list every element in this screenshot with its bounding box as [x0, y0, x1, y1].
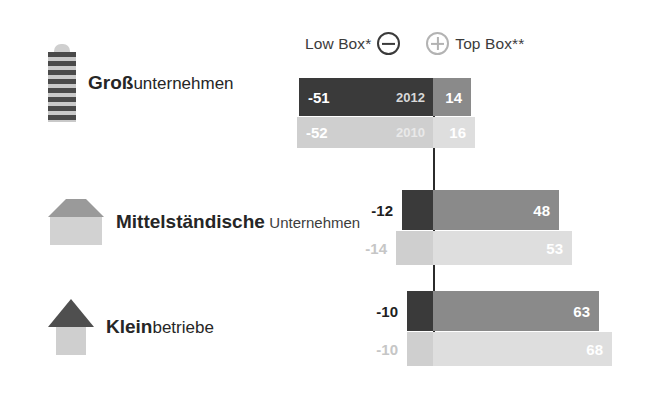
bar-klein-2012: -10 63 — [407, 291, 599, 331]
bar-segment-klein-2012-top: 63 — [433, 291, 599, 331]
bar-value-klein-2010-top: 68 — [586, 341, 603, 358]
bar-klein-2010: -10 68 — [407, 332, 612, 366]
bar-segment-gross-2010-top: 16 — [433, 117, 475, 148]
bar-segment-gross-2010-low: -52 2010 — [297, 117, 433, 148]
bar-segment-mittelstand-2010-low: -14 — [396, 231, 433, 265]
bar-segment-gross-2012-top: 14 — [433, 78, 471, 116]
bar-value-gross-2010-low: -52 — [306, 124, 328, 141]
bar-value-gross-2012-low: -51 — [308, 89, 330, 106]
bar-gross-2010: -52 2010 16 — [297, 117, 475, 148]
bar-value-klein-2012-low: -10 — [376, 303, 398, 320]
bar-value-mittelstand-2010-top: 53 — [546, 240, 563, 257]
bar-year-label-2010: 2010 — [396, 125, 425, 140]
bar-year-label-2012: 2012 — [396, 90, 425, 105]
bar-value-gross-2010-top: 16 — [449, 124, 466, 141]
bar-mittelstand-2012: -12 48 — [402, 190, 559, 230]
bar-value-mittelstand-2012-top: 48 — [533, 202, 550, 219]
bar-segment-klein-2010-top: 68 — [433, 332, 612, 366]
bar-mittelstand-2010: -14 53 — [396, 231, 572, 265]
bar-value-gross-2012-top: 14 — [445, 89, 462, 106]
bar-segment-klein-2012-low: -10 — [407, 291, 433, 331]
bar-value-mittelstand-2012-low: -12 — [371, 202, 393, 219]
bar-segment-klein-2010-low: -10 — [407, 332, 433, 366]
bar-value-klein-2012-top: 63 — [573, 303, 590, 320]
bar-segment-mittelstand-2012-top: 48 — [433, 190, 559, 230]
bar-value-mittelstand-2010-low: -14 — [365, 240, 387, 257]
bar-segment-mittelstand-2012-low: -12 — [402, 190, 433, 230]
bar-value-klein-2010-low: -10 — [376, 341, 398, 358]
bar-gross-2012: -51 2012 14 — [299, 78, 471, 116]
bar-segment-gross-2012-low: -51 2012 — [299, 78, 433, 116]
bar-segment-mittelstand-2010-top: 53 — [433, 231, 572, 265]
plot-area: -51 2012 14 -52 2010 16 -12 48 — [0, 0, 646, 395]
chart-root: Low Box* Top Box** Großunternehmen Mitte… — [0, 0, 646, 395]
